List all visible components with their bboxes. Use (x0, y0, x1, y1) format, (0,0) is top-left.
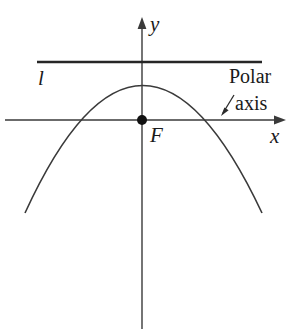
x-axis-label: x (270, 126, 279, 147)
y-axis-arrowhead (138, 17, 147, 29)
parabola-figure: y x l F Polar axis (0, 0, 295, 329)
figure-canvas (0, 0, 295, 329)
polar-axis-label-line2: axis (235, 93, 267, 113)
focus-point (137, 115, 147, 125)
polar-axis-pointer (221, 95, 234, 116)
focus-label: F (150, 125, 163, 146)
pointer-arrowhead (221, 108, 229, 116)
polar-axis-label-line1: Polar (229, 66, 271, 86)
directrix-label: l (38, 68, 44, 89)
y-axis (138, 17, 147, 329)
parabola-curve (25, 86, 262, 214)
y-axis-label: y (150, 14, 159, 35)
